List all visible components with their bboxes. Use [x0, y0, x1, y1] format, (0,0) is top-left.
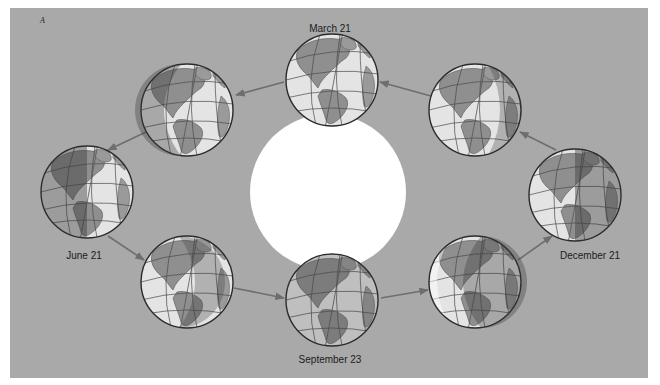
globe-march-21 — [286, 26, 378, 134]
orbit-diagram — [0, 0, 660, 385]
label-march-21: March 21 — [309, 23, 351, 34]
globe-december-21 — [529, 141, 621, 249]
label-june-21: June 21 — [66, 250, 102, 261]
globe-between-september-december — [429, 228, 527, 336]
globe-between-june-september — [141, 228, 233, 336]
label-december-21: December 21 — [560, 250, 620, 261]
globe-between-march-june — [135, 56, 233, 164]
globe-june-21 — [41, 138, 133, 246]
globe-between-december-march — [429, 56, 522, 164]
sun — [250, 114, 406, 270]
label-september-23: September 23 — [299, 354, 362, 365]
